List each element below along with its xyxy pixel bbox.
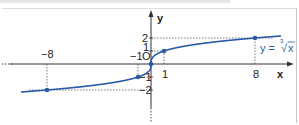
svg-text:y =: y =: [260, 42, 275, 54]
x-axis-arrow-icon: [287, 62, 294, 67]
y-axis-arrow-icon: [149, 10, 154, 17]
svg-text:x: x: [288, 42, 294, 54]
x-axis-label: x: [277, 68, 284, 80]
cube-root-chart: y x O −8 −1 1 8 2 1 −1 −2 y = 3 √ x: [0, 0, 299, 125]
x-axis: [2, 62, 294, 67]
x-tick-label-1: 1: [162, 68, 168, 80]
function-label: y = 3 √ x: [260, 38, 295, 54]
x-tick-label-neg1: −1: [130, 50, 143, 62]
x-tick-label-neg8: −8: [41, 48, 54, 60]
data-point: [45, 88, 50, 93]
svg-text:√: √: [281, 42, 288, 54]
data-point: [253, 36, 258, 41]
y-tick-label-neg1: −1: [139, 71, 152, 83]
data-point: [149, 62, 154, 67]
x-tick-label-8: 8: [253, 68, 259, 80]
y-tick-label-1: 1: [143, 41, 149, 53]
y-axis-label: y: [157, 12, 164, 24]
data-point: [162, 49, 167, 54]
y-tick-label-neg2: −2: [139, 84, 152, 96]
